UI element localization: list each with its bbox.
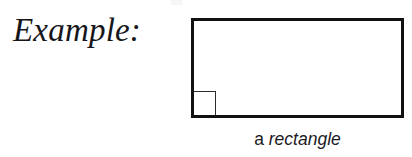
example-label: Example: bbox=[13, 10, 141, 50]
figure-caption: a rectangle bbox=[191, 128, 404, 150]
rectangle-shape bbox=[191, 18, 404, 118]
caption-article: a bbox=[254, 129, 269, 149]
scan-artifact bbox=[171, 0, 182, 5]
right-angle-marker-icon bbox=[194, 91, 216, 115]
example-figure-page: Example: a rectangle bbox=[0, 0, 412, 157]
caption-term: rectangle bbox=[269, 129, 341, 149]
